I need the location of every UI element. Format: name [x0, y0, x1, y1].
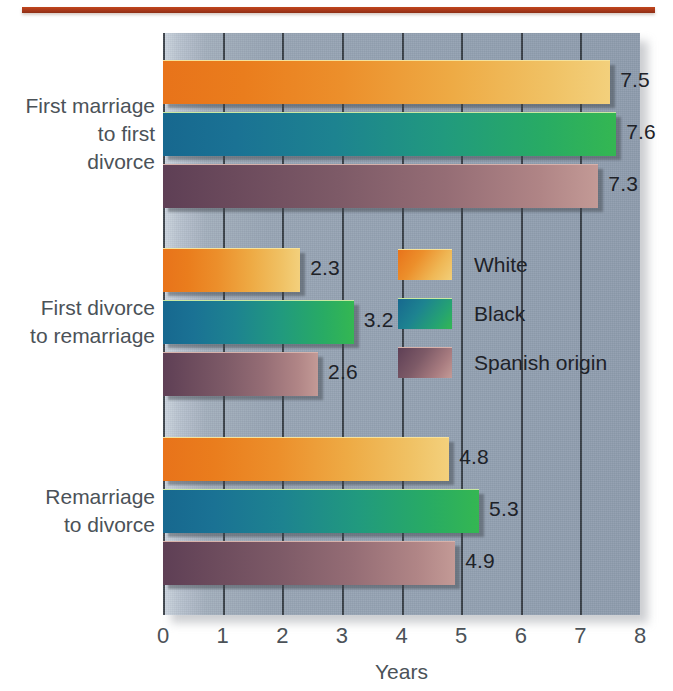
- value-label-white-group-1: 7.5: [620, 68, 650, 92]
- x-tick-label-1: 1: [203, 623, 243, 649]
- bar-spanish-origin-group-2: [163, 352, 318, 396]
- category-label-3: Remarriage to divorce: [3, 483, 155, 539]
- value-label-black-group-1: 7.6: [626, 120, 656, 144]
- legend-swatch-black: [398, 298, 452, 329]
- bar-white-group-3: [163, 437, 449, 481]
- value-label-spanish-origin-group-2: 2.6: [328, 360, 358, 384]
- category-axis-labels: First marriage to first divorceFirst div…: [0, 0, 155, 691]
- x-tick-label-2: 2: [262, 623, 302, 649]
- bar-black-group-3: [163, 489, 479, 533]
- x-tick-label-0: 0: [143, 623, 183, 649]
- category-label-2: First divorce to remarriage: [3, 294, 155, 350]
- bar-spanish-origin-group-1: [163, 164, 598, 208]
- horizontal-bar-chart: 7.57.67.32.33.22.64.85.34.9 White Black …: [0, 0, 673, 691]
- value-label-black-group-2: 3.2: [364, 308, 394, 332]
- chart-legend: White Black Spanish origin: [398, 240, 607, 387]
- legend-label-white: White: [474, 253, 528, 277]
- legend-label-black: Black: [474, 302, 525, 326]
- legend-item-white: White: [398, 240, 607, 289]
- legend-swatch-white: [398, 249, 452, 280]
- x-tick-label-4: 4: [382, 623, 422, 649]
- bar-black-group-2: [163, 300, 354, 344]
- x-tick-label-5: 5: [441, 623, 481, 649]
- bar-white-group-2: [163, 248, 300, 292]
- value-label-black-group-3: 5.3: [489, 497, 519, 521]
- x-axis-title: Years: [163, 660, 640, 684]
- x-tick-label-3: 3: [322, 623, 362, 649]
- x-tick-label-8: 8: [620, 623, 660, 649]
- bar-spanish-origin-group-3: [163, 541, 455, 585]
- category-label-1: First marriage to first divorce: [3, 92, 155, 176]
- legend-item-black: Black: [398, 289, 607, 338]
- x-tick-label-7: 7: [560, 623, 600, 649]
- x-tick-label-6: 6: [501, 623, 541, 649]
- legend-swatch-spanish-origin: [398, 347, 452, 378]
- value-label-white-group-3: 4.8: [459, 445, 489, 469]
- legend-label-spanish-origin: Spanish origin: [474, 351, 607, 375]
- value-label-white-group-2: 2.3: [310, 256, 340, 280]
- value-label-spanish-origin-group-3: 4.9: [465, 549, 495, 573]
- bar-white-group-1: [163, 60, 610, 104]
- bar-black-group-1: [163, 112, 616, 156]
- legend-item-spanish-origin: Spanish origin: [398, 338, 607, 387]
- value-label-spanish-origin-group-1: 7.3: [608, 172, 638, 196]
